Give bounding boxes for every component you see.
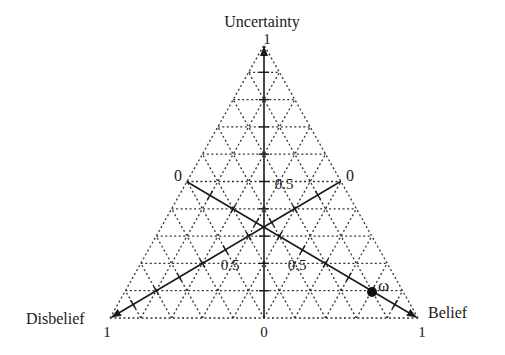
axes — [112, 47, 416, 318]
belief-value: 1 — [418, 324, 426, 340]
disbelief-value: 1 — [103, 324, 111, 340]
belief-axis — [187, 182, 417, 318]
opinion-point-label: ω — [378, 276, 389, 295]
belief-half-label: 0.5 — [288, 257, 307, 273]
belief-label: Belief — [428, 304, 468, 321]
disbelief-half-label: 0.5 — [221, 257, 240, 273]
uncertainty-label: Uncertainty — [224, 13, 300, 31]
right-edge-zero: 0 — [346, 167, 354, 184]
opinion-point — [367, 287, 377, 297]
left-edge-zero: 0 — [174, 167, 182, 184]
opinion-triangle-diagram: ω Uncertainty 1 Disbelief 1 Belief 1 0 0… — [0, 0, 505, 355]
uncertainty-half-label: 0.5 — [275, 176, 294, 192]
disbelief-label: Disbelief — [26, 310, 85, 327]
bottom-edge-zero: 0 — [260, 324, 268, 340]
uncertainty-value: 1 — [263, 31, 271, 47]
